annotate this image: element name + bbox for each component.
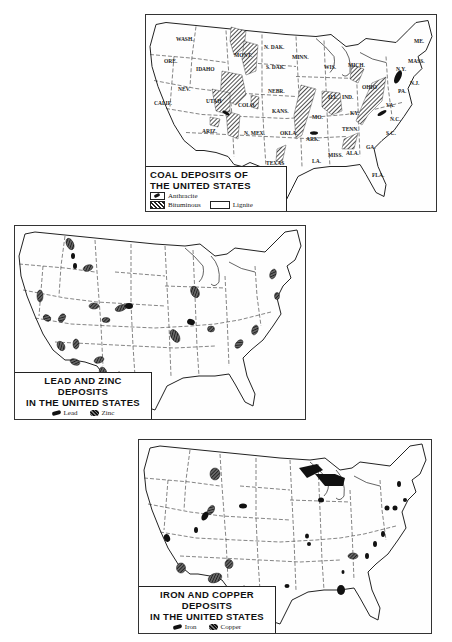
zinc-deposit xyxy=(275,293,280,300)
copper-label: Copper xyxy=(221,623,242,631)
svg-text:OKLA.: OKLA. xyxy=(280,130,298,136)
iron-deposit xyxy=(305,534,309,539)
svg-text:MICH.: MICH. xyxy=(348,62,366,68)
copper-deposit xyxy=(207,571,223,584)
svg-text:ARK.: ARK. xyxy=(306,136,320,142)
zinc-deposit xyxy=(73,339,79,349)
lead-zinc-map-title-line1: LEAD AND ZINC DEPOSITS xyxy=(19,375,147,397)
legend-item-lead: Lead xyxy=(52,409,78,417)
anthracite-deposit xyxy=(377,109,387,117)
svg-text:NEV.: NEV. xyxy=(178,86,191,92)
svg-text:GA.: GA. xyxy=(366,144,376,150)
svg-text:PA.: PA. xyxy=(398,88,407,94)
iron-deposit xyxy=(337,585,345,595)
svg-text:KY.: KY. xyxy=(350,110,360,116)
iron-deposit xyxy=(393,506,398,511)
svg-text:N. DAK.: N. DAK. xyxy=(264,44,285,50)
svg-text:N.J.: N.J. xyxy=(410,80,420,86)
svg-text:FLA.: FLA. xyxy=(372,172,385,178)
lead-zinc-map-title-line2: IN THE UNITED STATES xyxy=(19,397,147,408)
lignite-label: Lignite xyxy=(233,201,253,209)
zinc-label: Zinc xyxy=(102,409,115,417)
bituminous-label: Bituminous xyxy=(168,201,201,209)
iron-deposit xyxy=(385,506,390,511)
svg-text:ME.: ME. xyxy=(414,38,425,44)
zinc-swatch-icon xyxy=(90,410,99,416)
iron-deposit xyxy=(285,584,290,588)
iron-copper-legend-items: Iron Copper xyxy=(143,623,271,631)
svg-text:ILL.: ILL. xyxy=(328,94,339,100)
svg-text:MISS.: MISS. xyxy=(328,152,343,158)
iron-copper-map-title-line1: IRON AND COPPER DEPOSITS xyxy=(143,589,271,611)
svg-text:S. DAK.: S. DAK. xyxy=(266,64,286,70)
coal-map-legend: COAL DEPOSITS OF THE UNITED STATES Anthr… xyxy=(146,166,287,211)
svg-text:WIS.: WIS. xyxy=(324,64,337,70)
iron-deposit xyxy=(365,553,369,559)
zinc-deposit xyxy=(102,318,110,323)
iron-swatch-icon xyxy=(172,624,182,630)
iron-copper-map-legend: IRON AND COPPER DEPOSITS IN THE UNITED S… xyxy=(139,586,276,633)
zinc-deposit xyxy=(89,303,99,309)
zinc-deposit xyxy=(55,340,66,352)
lead-deposit xyxy=(71,253,75,259)
zinc-deposit xyxy=(57,313,67,324)
anthracite-swatch-icon xyxy=(150,192,165,200)
copper-deposit xyxy=(225,560,233,569)
svg-text:TENN.: TENN. xyxy=(342,126,359,132)
svg-text:MASS.: MASS. xyxy=(408,58,425,64)
svg-text:ALA.: ALA. xyxy=(346,150,360,156)
iron-deposit xyxy=(194,527,198,533)
svg-text:CALIF.: CALIF. xyxy=(154,100,173,106)
iron-deposit xyxy=(307,542,311,546)
lead-deposit xyxy=(73,263,77,269)
svg-text:MINN.: MINN. xyxy=(292,54,309,60)
bituminous-deposit xyxy=(210,117,220,127)
bituminous-swatch-icon xyxy=(150,201,165,209)
svg-text:IDAHO: IDAHO xyxy=(196,66,215,72)
coal-deposits-map: WASH. ORE. IDAHO MONT. N. DAK. S. DAK. M… xyxy=(145,14,437,212)
zinc-deposit xyxy=(69,357,80,366)
lead-zinc-map-legend: LEAD AND ZINC DEPOSITS IN THE UNITED STA… xyxy=(15,372,152,419)
svg-text:N.C.: N.C. xyxy=(390,116,401,122)
zinc-deposit xyxy=(82,263,93,272)
svg-text:N. MEX.: N. MEX. xyxy=(244,130,266,136)
zinc-deposit xyxy=(168,328,182,344)
iron-deposit xyxy=(342,570,345,574)
zinc-deposit xyxy=(233,338,244,350)
copper-swatch-icon xyxy=(209,624,218,630)
svg-text:ORE.: ORE. xyxy=(164,58,178,64)
lead-label: Lead xyxy=(64,409,78,417)
iron-deposit xyxy=(239,504,247,509)
copper-deposit xyxy=(177,563,186,573)
lead-zinc-deposits-map: LEAD AND ZINC DEPOSITS IN THE UNITED STA… xyxy=(14,225,306,420)
anthracite-deposit xyxy=(310,131,318,135)
lead-deposits xyxy=(71,253,196,326)
iron-label: Iron xyxy=(185,623,197,631)
zinc-deposit xyxy=(268,268,277,279)
svg-text:MO.: MO. xyxy=(312,114,323,120)
zinc-deposit xyxy=(37,290,43,302)
svg-text:MONT.: MONT. xyxy=(234,52,253,58)
zinc-deposit xyxy=(64,237,75,251)
iron-deposit xyxy=(318,498,324,503)
bituminous-deposit xyxy=(242,41,258,75)
lignite-swatch-icon xyxy=(210,201,230,209)
legend-item-anthracite: Anthracite xyxy=(150,192,282,200)
svg-text:S.C.: S.C. xyxy=(386,130,396,136)
svg-text:NEBR.: NEBR. xyxy=(268,88,285,94)
bituminous-deposits xyxy=(210,27,386,163)
svg-text:COLO.: COLO. xyxy=(238,102,256,108)
svg-text:ARIZ.: ARIZ. xyxy=(202,128,218,134)
iron-deposit xyxy=(403,498,407,502)
svg-text:WASH.: WASH. xyxy=(176,36,194,42)
iron-copper-deposits-map: IRON AND COPPER DEPOSITS IN THE UNITED S… xyxy=(138,439,432,634)
svg-text:IND.: IND. xyxy=(342,94,354,100)
iron-deposit xyxy=(381,531,385,537)
iron-deposit xyxy=(397,481,401,487)
iron-copper-map-title-line2: IN THE UNITED STATES xyxy=(143,611,271,622)
svg-text:OHIO: OHIO xyxy=(362,84,378,90)
iron-deposit xyxy=(163,533,171,543)
zinc-deposit xyxy=(250,324,259,335)
anthracite-label: Anthracite xyxy=(168,192,198,200)
lead-zinc-legend-items: Lead Zinc xyxy=(19,409,147,417)
